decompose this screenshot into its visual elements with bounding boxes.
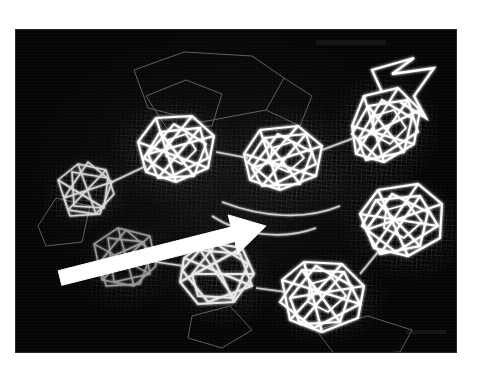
figure-root	[0, 0, 479, 374]
page-margin-bottom	[0, 352, 479, 374]
density-map-graphic	[16, 30, 456, 352]
electron-density-panel	[16, 30, 456, 352]
page-margin-top	[0, 0, 479, 30]
density-mesh-layer	[16, 30, 456, 352]
